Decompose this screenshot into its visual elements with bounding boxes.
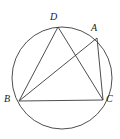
segment-bc (19, 100, 103, 101)
vertex-label-c: C (106, 94, 113, 104)
segment-ba (19, 38, 97, 101)
vertex-label-a: A (91, 23, 97, 33)
geometry-figure: D A B C (0, 0, 120, 139)
vertex-label-b: B (4, 94, 10, 104)
segment-bd (19, 27, 58, 101)
vertex-label-d: D (50, 12, 57, 22)
geometry-canvas (0, 0, 120, 139)
